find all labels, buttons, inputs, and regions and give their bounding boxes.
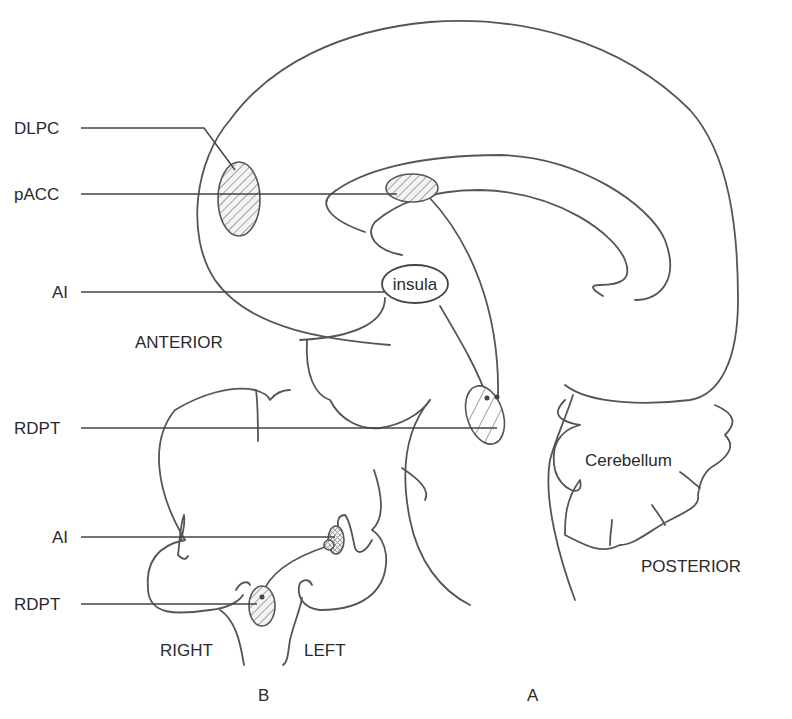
rdpt-b-marker xyxy=(260,595,265,600)
panel-label-b: B xyxy=(258,686,269,705)
temporal-lobe-base xyxy=(307,340,430,428)
fiber-ai-to-rdpt xyxy=(262,546,328,595)
label-left: LEFT xyxy=(304,641,346,660)
fiber-insula-to-rdpt xyxy=(440,306,487,398)
left-brainstem-edge xyxy=(283,598,302,665)
label-pacc: pACC xyxy=(14,185,59,204)
region-pacc xyxy=(386,174,438,202)
region-rdpt-a xyxy=(459,381,512,449)
cerebellum-outline xyxy=(554,400,733,549)
brainstem-anterior xyxy=(405,400,470,605)
right-brainstem-edge xyxy=(220,610,244,665)
orientation-labels: ANTERIOR Cerebellum POSTERIOR RIGHT LEFT xyxy=(135,333,741,660)
label-rdpt-b: RDPT xyxy=(14,595,60,614)
panel-letters: B A xyxy=(258,686,539,705)
label-right: RIGHT xyxy=(160,641,213,660)
label-dlpc: DLPC xyxy=(14,119,59,138)
region-ai-b-node xyxy=(324,540,334,550)
corpus-callosum-outer xyxy=(326,155,670,300)
region-rdpt-b xyxy=(249,586,275,626)
rdpt-a-marker-1 xyxy=(485,396,490,401)
brain-diagram: insula DLPC pACC AI RDPT AI RDPT ANTERIO… xyxy=(0,0,792,719)
leader-lines xyxy=(81,128,497,604)
cerebellum-fold-2 xyxy=(652,505,665,525)
midline-sulcus xyxy=(256,390,258,441)
rdpt-a-marker-2 xyxy=(495,395,500,400)
insula-label: insula xyxy=(393,275,438,294)
region-label-column: DLPC pACC AI RDPT AI RDPT xyxy=(14,119,68,614)
cerebrum-outline xyxy=(197,21,738,403)
region-dlpc xyxy=(218,162,260,236)
label-anterior: ANTERIOR xyxy=(135,333,223,352)
right-uncus-curl xyxy=(236,582,250,590)
cerebellum-fold-3 xyxy=(680,472,700,488)
label-ai-b: AI xyxy=(52,528,68,547)
panel-a-sagittal xyxy=(197,21,738,605)
panel-label-a: A xyxy=(527,686,539,705)
insula-bubble: insula xyxy=(382,265,448,303)
label-posterior: POSTERIOR xyxy=(641,557,741,576)
label-ai-a: AI xyxy=(52,283,68,302)
label-cerebellum: Cerebellum xyxy=(585,451,672,470)
cerebellum-fold-1 xyxy=(610,520,612,545)
right-temporal-lobe xyxy=(148,540,243,613)
right-hemisphere-outline xyxy=(159,389,290,540)
label-rdpt-a: RDPT xyxy=(14,419,60,438)
